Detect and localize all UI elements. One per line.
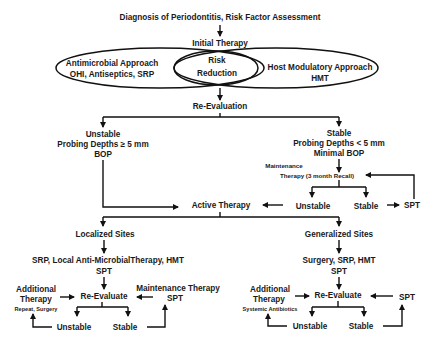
localized-re-evaluate: Re-Evaluate	[81, 292, 128, 301]
arrow-stable-to-maintenance-localized	[147, 305, 165, 327]
initial-therapy-label: Initial Therapy	[192, 39, 248, 48]
maint-spt-label: SPT	[404, 201, 420, 210]
arrow-unstable-to-active	[103, 160, 178, 207]
localized-maintenance-label: Maintenance Therapy	[136, 284, 220, 293]
generalized-unstable-label: Unstable	[293, 322, 328, 331]
localized-sites-title: Localized Sites	[75, 230, 135, 239]
maint-stable-label: Stable	[354, 202, 379, 211]
stable-probing-depths: Probing Depths < 5 mm	[293, 139, 385, 148]
unstable-bop: BOP	[94, 150, 112, 159]
generalized-sites-title: Generalized Sites	[305, 230, 374, 239]
host-modulatory-label: Host Modulatory Approach	[268, 63, 373, 72]
localized-stable-label: Stable	[113, 323, 138, 332]
localized-treatment: SRP, Local Anti-MicrobialTherapy, HMT	[32, 256, 184, 265]
active-therapy-label: Active Therapy	[192, 201, 251, 210]
localized-reevaluate-split	[77, 302, 128, 307]
antimicrobial-ellipse	[56, 48, 264, 88]
maint-unstable-label: Unstable	[296, 202, 331, 211]
unstable-probing-depths: Probing Depths ≥ 5 mm	[57, 140, 148, 149]
hmt-label: HMT	[311, 74, 329, 83]
risk-label: Risk	[208, 56, 226, 65]
localized-maintenance-spt: SPT	[167, 294, 183, 303]
generalized-re-evaluate: Re-Evaluate	[315, 291, 362, 300]
generalized-spt-right: SPT	[399, 293, 415, 302]
localized-spt: SPT	[96, 267, 112, 276]
stable-label: Stable	[327, 129, 352, 138]
generalized-additional-label: Additional	[250, 285, 290, 294]
localized-additional-label: Additional	[16, 285, 56, 294]
generalized-spt: SPT	[331, 267, 347, 276]
arrow-stable-to-spt-generalized	[383, 305, 402, 326]
generalized-therapy-label: Therapy	[253, 295, 285, 304]
maintenance-label: Maintenance	[265, 162, 303, 169]
localized-unstable-label: Unstable	[57, 323, 92, 332]
active-split	[103, 212, 339, 217]
re-evaluation-label: Re-Evaluation	[193, 102, 248, 111]
antimicrobial-label: Antimicrobial Approach	[66, 59, 159, 68]
localized-therapy-label: Therapy	[20, 295, 52, 304]
generalized-treatment: Surgery, SRP, HMT	[303, 256, 376, 265]
maintenance-recall-label: Therapy (3 month Recall)	[280, 172, 354, 179]
maintenance-split	[312, 180, 366, 187]
split-connector	[103, 113, 339, 117]
localized-additional-note: Repeat, Surgery	[15, 306, 59, 312]
arrow-unstable-to-additional-localized	[33, 314, 52, 327]
generalized-additional-note: Systemic Antibiotics	[243, 306, 298, 312]
diagnosis-title: Diagnosis of Periodontitis, Risk Factor …	[120, 13, 321, 22]
spt-recall-loop-arrow	[366, 175, 414, 199]
generalized-stable-label: Stable	[349, 322, 374, 331]
unstable-label: Unstable	[86, 130, 121, 139]
periodontitis-treatment-flowchart: Diagnosis of Periodontitis, Risk Factor …	[0, 0, 435, 344]
stable-minimal-bop: Minimal BOP	[314, 149, 365, 158]
reduction-label: Reduction	[197, 69, 237, 78]
generalized-reevaluate-split	[312, 301, 364, 307]
antimicrobial-methods: OHI, Antiseptics, SRP	[70, 70, 155, 79]
arrow-unstable-to-additional-generalized	[268, 314, 287, 326]
